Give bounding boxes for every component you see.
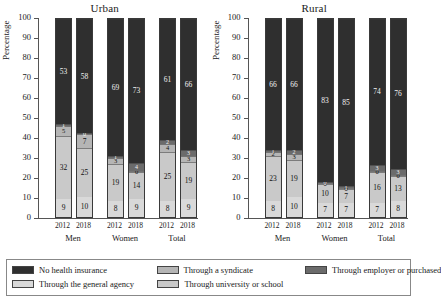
- segment-value-label: 8: [266, 205, 281, 213]
- segment-value-label: 3: [181, 156, 196, 163]
- y-tick-urban-60: 60: [34, 98, 38, 99]
- segment-value-label: 83: [318, 97, 333, 105]
- y-tick-label-urban-90: 90: [23, 32, 32, 42]
- segment-employer-or-purchased: 1: [108, 156, 123, 158]
- segment-university-or-school: 16: [370, 172, 385, 204]
- segment-university-or-school: 14: [129, 172, 144, 200]
- y-tick-rural-60: 60: [244, 98, 248, 99]
- chart-legend: No health insurance Through a syndicate …: [6, 259, 411, 296]
- bar-urban-men-2012[interactable]: 9325153: [55, 18, 72, 218]
- bar-rural-women-2018[interactable]: 770185: [338, 18, 355, 218]
- segment-general-agency: 8: [160, 201, 175, 217]
- segment-value-label: 7: [318, 206, 333, 214]
- segment-value-label: 10: [77, 203, 92, 211]
- bar-rural-men-2012[interactable]: 8232166: [265, 18, 282, 218]
- segment-university-or-school: 23: [266, 156, 281, 202]
- segment-value-label: 8: [391, 205, 406, 213]
- y-tick-label-rural-10: 10: [232, 192, 241, 202]
- bar-urban-women-2018[interactable]: 9140473: [128, 18, 145, 218]
- y-tick-label-rural-70: 70: [232, 72, 241, 82]
- x-axis-line-rural: [248, 218, 408, 219]
- bar-rural-total-2018[interactable]: 8130376: [390, 18, 407, 218]
- panel-title-urban: Urban: [0, 2, 210, 14]
- y-tick-label-rural-0: 0: [236, 212, 240, 222]
- group-label-rural-men: Men: [258, 233, 308, 243]
- bar-urban-women-2012[interactable]: 8193169: [107, 18, 124, 218]
- segment-no-health-insurance: 58: [77, 19, 92, 133]
- group-label-urban-women: Women: [100, 233, 150, 243]
- legend-row-1: No health insurance Through a syndicate …: [12, 263, 405, 277]
- segment-university-or-school: 25: [77, 148, 92, 197]
- y-tick-urban-70: 70: [34, 78, 38, 79]
- segment-syndicate: 0: [129, 171, 144, 172]
- y-tick-label-urban-10: 10: [23, 192, 32, 202]
- plot-area-urban: 0102030405060708090100 93251531025705881…: [38, 18, 198, 226]
- y-tick-urban-90: 90: [34, 38, 38, 39]
- y-tick-rural-90: 90: [244, 38, 248, 39]
- bar-urban-total-2018[interactable]: 9193366: [180, 18, 197, 218]
- bar-rural-total-2012[interactable]: 7160374: [369, 18, 386, 218]
- segment-value-label: 7: [77, 138, 92, 146]
- bars-rural: 8232166101932667100083770185716037481303…: [249, 18, 408, 218]
- x-tick-label-urban-men-2018: 2018: [69, 221, 99, 230]
- legend-swatch-general-agency: [12, 280, 34, 288]
- segment-no-health-insurance: 66: [266, 19, 281, 150]
- y-tick-rural-50: 50: [244, 118, 248, 119]
- x-tick-label-rural-women-2018: 2018: [330, 221, 360, 230]
- segment-employer-or-purchased: 0: [77, 133, 92, 134]
- bar-rural-women-2012[interactable]: 7100083: [317, 18, 334, 218]
- segment-value-label: 3: [391, 169, 406, 175]
- y-tick-label-urban-30: 30: [23, 152, 32, 162]
- group-label-rural-total: Total: [362, 233, 412, 243]
- segment-general-agency: 7: [339, 203, 354, 217]
- y-axis-label-urban: Percentage: [1, 21, 11, 60]
- x-axis-line-urban: [38, 218, 198, 219]
- legend-label-employer-or-purchased: Through employer or purchased: [332, 266, 441, 275]
- legend-swatch-employer-or-purchased: [305, 266, 327, 274]
- segment-value-label: 66: [287, 81, 302, 89]
- legend-item-general-agency: Through the general agency: [12, 280, 157, 289]
- bar-urban-total-2012[interactable]: 8254261: [159, 18, 176, 218]
- y-tick-urban-30: 30: [34, 158, 38, 159]
- y-tick-rural-30: 30: [244, 158, 248, 159]
- segment-value-label: 9: [181, 204, 196, 212]
- segment-general-agency: 9: [56, 199, 71, 217]
- y-tick-rural-20: 20: [244, 178, 248, 179]
- segment-value-label: 85: [339, 99, 354, 107]
- segment-value-label: 13: [391, 185, 406, 193]
- segment-value-label: 10: [287, 203, 302, 211]
- legend-item-employer-or-purchased: Through employer or purchased: [305, 266, 405, 275]
- segment-employer-or-purchased: 3: [181, 150, 196, 156]
- y-tick-rural-80: 80: [244, 58, 248, 59]
- legend-label-no-health-insurance: No health insurance: [39, 266, 107, 275]
- bar-urban-men-2018[interactable]: 10257058: [76, 18, 93, 218]
- segment-value-label: 2: [287, 149, 302, 155]
- x-tick-label-urban-total-2018: 2018: [173, 221, 203, 230]
- group-label-urban-men: Men: [48, 233, 98, 243]
- segment-general-agency: 10: [287, 197, 302, 217]
- segment-value-label: 2: [160, 139, 175, 145]
- plot-area-rural: 0102030405060708090100 82321661019326671…: [248, 18, 408, 226]
- bar-rural-men-2018[interactable]: 10193266: [286, 18, 303, 218]
- x-tick-label-rural-men-2018: 2018: [278, 221, 308, 230]
- segment-value-label: 3: [370, 165, 385, 171]
- group-label-rural-women: Women: [310, 233, 360, 243]
- segment-general-agency: 7: [370, 203, 385, 217]
- y-tick-urban-50: 50: [34, 118, 38, 119]
- legend-swatch-syndicate: [157, 266, 179, 274]
- legend-item-university-or-school: Through university or school: [157, 280, 306, 289]
- segment-value-label: 19: [287, 175, 302, 183]
- y-tick-rural-10: 10: [244, 198, 248, 199]
- legend-label-university-or-school: Through university or school: [184, 280, 283, 289]
- segment-value-label: 58: [77, 73, 92, 81]
- segment-employer-or-purchased: 3: [370, 165, 385, 171]
- segment-value-label: 5: [56, 128, 71, 135]
- segment-general-agency: 9: [129, 199, 144, 217]
- segment-value-label: 8: [160, 205, 175, 213]
- segment-employer-or-purchased: 4: [129, 163, 144, 171]
- segment-value-label: 8: [108, 205, 123, 213]
- segment-university-or-school: 19: [108, 164, 123, 202]
- y-tick-urban-10: 10: [34, 198, 38, 199]
- y-tick-urban-40: 40: [34, 138, 38, 139]
- panel-title-rural: Rural: [210, 2, 420, 14]
